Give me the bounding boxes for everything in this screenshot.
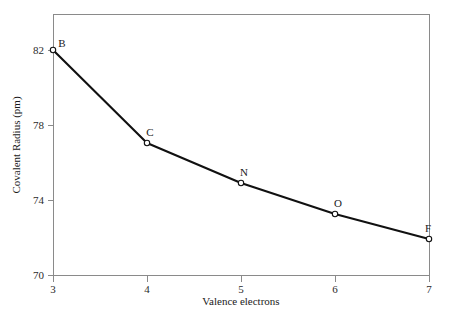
x-axis-tick-labels: 3 4 5 6 7 [50, 283, 432, 295]
x-tick-label-6: 6 [332, 283, 338, 295]
data-point-n[interactable] [238, 180, 243, 185]
chart-figure: 82 78 74 70 3 4 5 6 7 [0, 0, 449, 320]
data-point-f[interactable] [426, 236, 431, 241]
data-point-o[interactable] [332, 211, 337, 216]
data-point-c[interactable] [144, 140, 149, 145]
axis-frame-rect [54, 15, 430, 276]
series-line [53, 50, 429, 239]
y-tick-label-70: 70 [33, 269, 45, 281]
plot-frame [54, 15, 430, 276]
x-axis-title: Valence electrons [202, 295, 279, 307]
y-tick-label-78: 78 [33, 119, 45, 131]
data-series-covalent-radius [50, 47, 431, 241]
y-tick-label-74: 74 [33, 194, 45, 206]
x-tick-label-5: 5 [238, 283, 244, 295]
y-axis-ticks [48, 51, 54, 276]
data-point-label-c: C [146, 126, 153, 138]
line-chart-canvas: 82 78 74 70 3 4 5 6 7 [0, 0, 449, 320]
y-axis-title: Covalent Radius (pm) [10, 96, 23, 193]
data-point-label-n: N [240, 166, 248, 178]
data-point-label-b: B [58, 37, 65, 49]
data-point-labels: B C N O F [58, 37, 431, 234]
y-tick-label-82: 82 [33, 44, 44, 56]
x-tick-label-3: 3 [50, 283, 56, 295]
x-tick-label-7: 7 [426, 283, 432, 295]
x-axis-ticks [54, 276, 430, 282]
data-point-b[interactable] [50, 47, 55, 52]
x-tick-label-4: 4 [144, 283, 150, 295]
data-point-label-f: F [425, 222, 431, 234]
data-point-label-o: O [334, 197, 342, 209]
y-axis-tick-labels: 82 78 74 70 [33, 44, 45, 281]
